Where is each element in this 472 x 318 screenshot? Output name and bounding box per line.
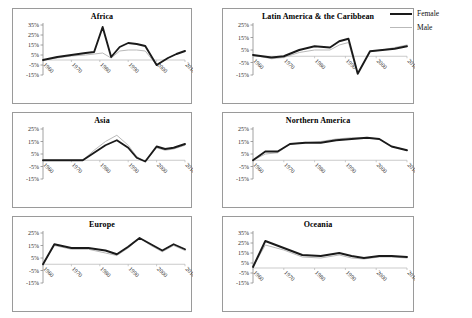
- x-tick-label: 1970: [283, 58, 296, 71]
- x-tick-label: 1990: [127, 266, 140, 279]
- x-tick-label: 2010: [406, 58, 415, 71]
- x-tick-label: 1980: [314, 269, 327, 282]
- series-line-female-northern-america: [253, 138, 407, 161]
- y-tick-label: 5%: [241, 151, 249, 157]
- y-tick-label: 15%: [238, 139, 249, 145]
- panel-africa: Africa35%25%15%5%-5%-15%1960197019801990…: [12, 8, 192, 104]
- panel-asia: Asia25%15%5%-5%-15%196019701980199020002…: [12, 112, 192, 208]
- x-tick-label: 2010: [406, 162, 415, 175]
- y-tick-label: 35%: [28, 22, 39, 28]
- x-tick-label: 2000: [375, 162, 388, 175]
- panel-latin-america-the-caribbean: Latin America & the Caribbean25%15%5%-5%…: [222, 8, 414, 104]
- x-tick-label: 2010: [184, 162, 193, 175]
- x-tick-label: 1960: [42, 266, 55, 279]
- y-tick-label: 15%: [28, 42, 39, 48]
- x-tick-label: 2010: [406, 269, 415, 282]
- y-tick-label: 25%: [28, 230, 39, 236]
- y-tick-label: 35%: [238, 230, 249, 236]
- plot-area-asia: 25%15%5%-5%-15%196019701980199020002010: [13, 113, 193, 209]
- y-tick-label: 25%: [28, 32, 39, 38]
- series-line-female-oceania: [253, 241, 407, 267]
- x-tick-label: 1970: [71, 266, 84, 279]
- chart-legend: Female Male: [390, 8, 468, 36]
- y-tick-label: 15%: [28, 243, 39, 249]
- legend-label-male: Male: [417, 23, 432, 32]
- x-tick-label: 1980: [314, 162, 327, 175]
- x-tick-label: 2000: [156, 266, 169, 279]
- series-line-male-europe: [43, 238, 185, 264]
- x-tick-label: 1990: [345, 269, 358, 282]
- x-tick-label: 1990: [127, 61, 140, 74]
- panel-oceania: Oceania35%25%15%5%-5%-15%196019701980199…: [222, 216, 414, 312]
- y-tick-label: 5%: [31, 52, 39, 58]
- x-tick-label: 1970: [283, 162, 296, 175]
- y-tick-label: -5%: [29, 164, 39, 170]
- x-tick-label: 1960: [42, 162, 55, 175]
- x-tick-label: 2000: [375, 58, 388, 71]
- x-tick-label: 1980: [314, 58, 327, 71]
- y-tick-label: 25%: [238, 126, 249, 132]
- y-tick-label: -15%: [26, 72, 39, 78]
- legend-item-male: Male: [390, 22, 468, 33]
- y-tick-label: 5%: [31, 255, 39, 261]
- y-tick-label: -5%: [29, 268, 39, 274]
- x-tick-label: 1990: [345, 162, 358, 175]
- y-tick-label: -15%: [236, 72, 249, 78]
- y-tick-label: -15%: [236, 176, 249, 182]
- y-tick-label: 25%: [238, 22, 249, 28]
- x-tick-label: 2010: [184, 266, 193, 279]
- y-tick-label: 5%: [241, 47, 249, 53]
- legend-swatch-female-icon: [390, 13, 412, 15]
- y-tick-label: -15%: [26, 176, 39, 182]
- x-tick-label: 2000: [156, 162, 169, 175]
- y-tick-label: 15%: [238, 35, 249, 41]
- plot-area-northern-america: 25%15%5%-5%-15%196019701980199020002010: [223, 113, 415, 209]
- x-tick-label: 1990: [127, 162, 140, 175]
- x-tick-label: 1970: [283, 269, 296, 282]
- y-tick-label: -15%: [26, 280, 39, 286]
- legend-label-female: Female: [417, 9, 439, 18]
- x-tick-label: 1970: [71, 162, 84, 175]
- x-tick-label: 1960: [252, 58, 265, 71]
- x-tick-label: 1960: [42, 61, 55, 74]
- x-tick-label: 1960: [252, 269, 265, 282]
- panel-northern-america: Northern America25%15%5%-5%-15%196019701…: [222, 112, 414, 208]
- y-tick-label: 15%: [28, 139, 39, 145]
- x-tick-label: 1980: [99, 162, 112, 175]
- panel-europe: Europe25%15%5%-5%-15%1960197019801990200…: [12, 216, 192, 312]
- legend-item-female: Female: [390, 8, 468, 19]
- plot-area-oceania: 35%25%15%5%-5%-15%1960197019801990200020…: [223, 217, 415, 313]
- x-tick-label: 2000: [375, 269, 388, 282]
- y-tick-label: -5%: [239, 60, 249, 66]
- x-tick-label: 1970: [71, 61, 84, 74]
- y-tick-label: -15%: [236, 280, 249, 286]
- y-tick-label: -5%: [29, 62, 39, 68]
- legend-swatch-male-icon: [390, 27, 412, 28]
- x-tick-label: 1960: [252, 162, 265, 175]
- x-tick-label: 1980: [99, 266, 112, 279]
- series-line-female-africa: [43, 27, 185, 65]
- chart-grid: Africa35%25%15%5%-5%-15%1960197019801990…: [0, 0, 472, 318]
- x-tick-label: 1980: [99, 61, 112, 74]
- x-tick-label: 2010: [184, 61, 193, 74]
- series-line-female-asia: [43, 140, 185, 161]
- y-tick-label: 5%: [241, 260, 249, 266]
- y-tick-label: 15%: [238, 250, 249, 256]
- plot-area-latin-america-the-caribbean: 25%15%5%-5%-15%196019701980199020002010: [223, 9, 415, 105]
- y-tick-label: 25%: [238, 240, 249, 246]
- y-tick-label: -5%: [239, 270, 249, 276]
- y-tick-label: -5%: [239, 164, 249, 170]
- y-tick-label: 25%: [28, 126, 39, 132]
- plot-area-europe: 25%15%5%-5%-15%196019701980199020002010: [13, 217, 193, 313]
- plot-area-africa: 35%25%15%5%-5%-15%1960197019801990200020…: [13, 9, 193, 105]
- y-tick-label: 5%: [31, 151, 39, 157]
